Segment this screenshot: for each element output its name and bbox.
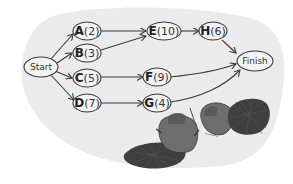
svg-text:A(2): A(2) [75, 24, 100, 38]
svg-text:G(4): G(4) [144, 96, 169, 110]
svg-text:B(3): B(3) [75, 46, 100, 60]
svg-text:E(10): E(10) [149, 24, 180, 38]
node-h: H(6) [199, 22, 227, 40]
svg-text:F(9): F(9) [145, 70, 169, 84]
node-g: G(4) [143, 94, 171, 112]
node-start: Start [24, 57, 58, 77]
diagram-canvas: Start A(2) B(3) C(5) D(7) E(10) F(9) G(4… [0, 0, 293, 184]
node-c: C(5) [73, 69, 101, 87]
svg-text:D(7): D(7) [74, 96, 100, 110]
node-a: A(2) [73, 22, 101, 40]
node-f: F(9) [143, 68, 171, 86]
node-finish-label: Finish [242, 56, 268, 66]
node-finish: Finish [237, 51, 273, 71]
svg-text:C(5): C(5) [75, 71, 99, 85]
node-b: B(3) [73, 44, 101, 62]
node-d: D(7) [73, 94, 101, 112]
node-start-label: Start [30, 62, 52, 72]
svg-text:H(6): H(6) [200, 24, 226, 38]
node-e: E(10) [147, 22, 181, 40]
